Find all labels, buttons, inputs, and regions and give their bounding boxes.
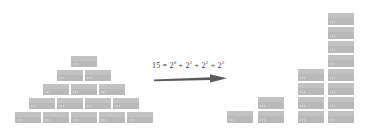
block-sheen — [15, 112, 41, 117]
block-dots — [115, 105, 120, 107]
block-dots — [101, 91, 106, 93]
equation-term: 20 — [170, 61, 177, 70]
block-dots — [330, 105, 335, 107]
block-sheen — [71, 112, 97, 117]
block-dots — [59, 105, 64, 107]
block-dots — [87, 77, 92, 79]
block-dots — [330, 91, 335, 93]
block-dots — [129, 119, 134, 121]
block-sheen — [43, 84, 69, 89]
block-sheen — [113, 98, 139, 103]
block-sheen — [258, 111, 284, 116]
column-block — [297, 96, 325, 110]
block-sheen — [57, 98, 83, 103]
block-dots — [300, 105, 305, 107]
block-dots — [59, 77, 64, 79]
right-arrow-icon — [154, 73, 228, 84]
pyramid-block — [28, 97, 56, 110]
block-sheen — [298, 83, 324, 88]
block-sheen — [85, 70, 111, 75]
equation-term: 22 — [202, 61, 209, 70]
block-sheen — [328, 27, 354, 32]
block-dots — [330, 35, 335, 37]
block-sheen — [328, 13, 354, 18]
column-block — [327, 40, 355, 54]
column-block — [327, 12, 355, 26]
pyramid-block — [42, 83, 70, 96]
block-dots — [330, 119, 335, 121]
block-dots — [73, 63, 78, 65]
block-sheen — [71, 56, 97, 61]
pyramid-block — [126, 111, 154, 124]
pyramid-block — [42, 111, 70, 124]
block-dots — [101, 119, 106, 121]
equation-term: 21 — [186, 61, 193, 70]
block-dots — [300, 91, 305, 93]
column-block — [327, 54, 355, 68]
column-block — [297, 68, 325, 82]
pyramid-block — [56, 69, 84, 82]
block-sheen — [85, 98, 111, 103]
pyramid-block — [70, 55, 98, 68]
block-dots — [31, 105, 36, 107]
block-sheen — [328, 111, 354, 116]
block-sheen — [29, 98, 55, 103]
equation-text: 15 = 20 + 21 + 22 + 23 — [152, 61, 224, 70]
equation-group: 15 = 20 + 21 + 22 + 23 — [152, 61, 224, 70]
pyramid-block — [56, 97, 84, 110]
pyramid-block — [98, 111, 126, 124]
block-sheen — [328, 97, 354, 102]
column-block — [257, 96, 285, 110]
block-sheen — [57, 70, 83, 75]
block-dots — [330, 77, 335, 79]
block-sheen — [99, 112, 125, 117]
block-sheen — [258, 97, 284, 102]
column-block — [327, 82, 355, 96]
block-dots — [330, 21, 335, 23]
block-dots — [300, 77, 305, 79]
block-dots — [260, 105, 265, 107]
column-block — [226, 110, 254, 124]
pyramid-block — [84, 69, 112, 82]
binary-decomposition-figure: 15 = 20 + 21 + 22 + 23 — [0, 0, 368, 136]
pyramid-block — [84, 97, 112, 110]
column-block — [257, 110, 285, 124]
block-sheen — [127, 112, 153, 117]
block-dots — [87, 105, 92, 107]
column-block — [297, 82, 325, 96]
block-sheen — [71, 84, 97, 89]
block-sheen — [328, 55, 354, 60]
block-sheen — [328, 83, 354, 88]
block-dots — [17, 119, 22, 121]
pyramid-block — [14, 111, 42, 124]
block-sheen — [298, 97, 324, 102]
block-dots — [45, 119, 50, 121]
block-dots — [45, 91, 50, 93]
block-dots — [73, 119, 78, 121]
pyramid-block — [70, 83, 98, 96]
block-sheen — [43, 112, 69, 117]
pyramid-block — [70, 111, 98, 124]
column-block — [327, 68, 355, 82]
block-dots — [260, 119, 265, 121]
column-block — [297, 110, 325, 124]
block-sheen — [99, 84, 125, 89]
block-sheen — [227, 111, 253, 116]
block-sheen — [298, 69, 324, 74]
column-block — [327, 110, 355, 124]
block-sheen — [328, 69, 354, 74]
pyramid-block — [112, 97, 140, 110]
block-sheen — [328, 41, 354, 46]
column-block — [327, 26, 355, 40]
block-dots — [73, 91, 78, 93]
equation-term: 23 — [218, 61, 225, 70]
pyramid-block — [98, 83, 126, 96]
column-block — [327, 96, 355, 110]
block-dots — [300, 119, 305, 121]
block-dots — [330, 63, 335, 65]
block-sheen — [298, 111, 324, 116]
block-dots — [330, 49, 335, 51]
block-dots — [229, 119, 234, 121]
